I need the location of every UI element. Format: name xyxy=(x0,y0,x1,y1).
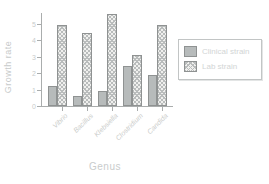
x-tick-mark xyxy=(62,107,63,111)
y-axis-line xyxy=(41,13,42,106)
y-tick-mark xyxy=(37,90,41,91)
x-category-label: Bacillus xyxy=(72,112,95,135)
growth-rate-bar-chart: Growth rate 012345VibrioBacillusKlebsiel… xyxy=(0,0,269,184)
bar-crosshatch xyxy=(157,25,167,106)
y-tick-label: 2 xyxy=(26,70,36,77)
y-tick-label: 4 xyxy=(26,37,36,44)
bar-solid xyxy=(148,75,157,106)
legend-item: Clinical strain xyxy=(184,44,257,59)
x-axis-label: Genus xyxy=(65,161,145,172)
crosshatch-bar-swatch-icon xyxy=(184,61,197,72)
x-tick-mark xyxy=(87,107,88,111)
y-axis-label: Growth rate xyxy=(3,32,13,102)
y-tick-mark xyxy=(37,106,41,107)
solid-bar-swatch-icon xyxy=(184,46,197,57)
x-axis-line xyxy=(41,106,173,107)
x-tick-mark xyxy=(112,107,113,111)
y-tick-mark xyxy=(37,57,41,58)
legend: Clinical strain Lab strain xyxy=(178,39,262,80)
bar-solid xyxy=(98,91,107,106)
legend-item: Lab strain xyxy=(184,59,257,74)
legend-label: Lab strain xyxy=(202,62,237,71)
bar-solid xyxy=(123,66,132,106)
x-tick-mark xyxy=(137,107,138,111)
y-tick-label: 5 xyxy=(26,21,36,28)
y-tick-mark xyxy=(37,40,41,41)
bar-crosshatch xyxy=(132,55,142,106)
x-category-label: Vibrio xyxy=(51,112,69,130)
x-category-label: Candida xyxy=(146,112,170,136)
bar-crosshatch xyxy=(107,14,117,106)
y-tick-mark xyxy=(37,24,41,25)
bar-solid xyxy=(48,86,57,106)
bar-crosshatch xyxy=(57,25,67,106)
y-tick-mark xyxy=(37,73,41,74)
y-tick-label: 3 xyxy=(26,54,36,61)
bar-crosshatch xyxy=(82,33,92,106)
y-tick-label: 0 xyxy=(26,103,36,110)
y-tick-label: 1 xyxy=(26,87,36,94)
legend-label: Clinical strain xyxy=(202,47,250,56)
x-tick-mark xyxy=(162,107,163,111)
bar-solid xyxy=(73,96,82,106)
